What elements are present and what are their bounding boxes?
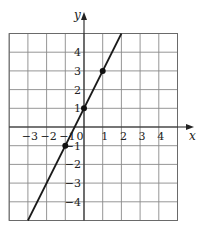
data-point — [81, 105, 87, 111]
axes — [9, 12, 194, 221]
y-tick-label: 1 — [74, 102, 81, 115]
data-point — [62, 143, 68, 149]
x-tick-label: 3 — [139, 130, 146, 143]
y-tick-label: −4 — [65, 196, 81, 209]
data-point — [100, 68, 106, 74]
x-tick-label: 4 — [157, 130, 164, 143]
y-tick-label: 4 — [74, 46, 81, 59]
y-axis-arrow-icon — [81, 12, 87, 20]
y-tick-label: −3 — [65, 177, 81, 190]
x-tick-label: 2 — [120, 130, 127, 143]
coordinate-plane: −3−2−101234−4−3−2−11234 x y — [0, 0, 207, 235]
x-tick-label: 1 — [101, 130, 108, 143]
x-tick-label: −3 — [22, 130, 38, 143]
y-tick-label: 2 — [74, 84, 81, 97]
y-tick-label: −2 — [65, 158, 81, 171]
y-axis-label: y — [73, 8, 81, 22]
x-tick-label: −2 — [40, 130, 56, 143]
y-tick-label: 3 — [74, 65, 81, 78]
x-axis-label: x — [189, 129, 196, 143]
